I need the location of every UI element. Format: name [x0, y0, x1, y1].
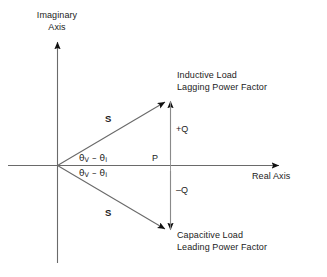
real-power-label: P	[152, 153, 158, 164]
lower-angle-theta-v: θV	[79, 168, 89, 178]
upper-angle-label: θV – θI	[79, 153, 107, 166]
lower-s-vector-label: S	[105, 207, 111, 218]
capacitive-load-line1: Capacitive Load	[177, 229, 267, 241]
negative-reactive-power-label: –Q	[176, 185, 188, 196]
upper-angle-theta-i: θI	[100, 153, 108, 163]
imaginary-axis-label-line1: Imaginary	[26, 9, 88, 21]
lower-angle-theta-i: θI	[100, 168, 108, 178]
imaginary-axis-label: Imaginary Axis	[26, 9, 88, 33]
capacitive-load-annotation: Capacitive Load Leading Power Factor	[177, 229, 267, 253]
phasor-diagram-canvas: Imaginary Axis Real Axis S S θV – θI θV …	[0, 0, 327, 277]
lower-angle-label: θV – θI	[79, 168, 107, 181]
positive-reactive-power-label: +Q	[176, 124, 188, 135]
inductive-load-line2: Lagging Power Factor	[177, 81, 267, 93]
capacitive-load-line2: Leading Power Factor	[177, 241, 267, 253]
upper-angle-minus: –	[89, 153, 100, 163]
lower-s-vector	[58, 166, 166, 230]
power-triangle-svg	[0, 0, 327, 277]
inductive-load-line1: Inductive Load	[177, 69, 267, 81]
upper-s-vector-label: S	[105, 113, 111, 124]
inductive-load-annotation: Inductive Load Lagging Power Factor	[177, 69, 267, 93]
upper-s-vector	[58, 102, 166, 166]
upper-angle-theta-v: θV	[79, 153, 89, 163]
lower-angle-minus: –	[89, 168, 100, 178]
imaginary-axis-label-line2: Axis	[26, 21, 88, 33]
real-axis-label: Real Axis	[252, 171, 290, 182]
